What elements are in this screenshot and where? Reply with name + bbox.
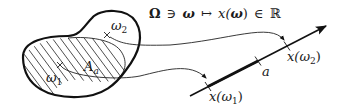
omega1-label: ω1 [46, 70, 62, 87]
tick-a-label: a [262, 64, 270, 79]
random-variable-diagram: ω1 ω2 Aa a x(ω1) x(ω2) Ω ∋ ω ↦ x(ω) ∈ ℝ [0, 0, 342, 108]
subset-a-label: Aa [83, 59, 99, 76]
point-omega1-marker [57, 62, 63, 68]
point-omega2-marker [104, 32, 110, 38]
mapping-formula: Ω ∋ ω ↦ x(ω) ∈ ℝ [149, 6, 282, 21]
interval-segment [208, 61, 258, 87]
mapping-arrow-omega2 [110, 32, 284, 45]
tick-x2-label: x(ω2) [287, 49, 321, 66]
omega2-label: ω2 [111, 18, 127, 35]
tick-x1-label: x(ω1) [209, 89, 243, 106]
